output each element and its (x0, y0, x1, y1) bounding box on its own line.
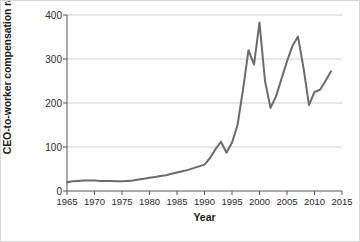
y-tick-label: 0 (56, 186, 62, 197)
x-tick-label: 1995 (221, 196, 242, 207)
y-tick-label: 400 (45, 10, 62, 21)
y-tick-label: 100 (45, 142, 62, 153)
y-tick-label: 300 (45, 54, 62, 65)
series-layer (67, 15, 342, 191)
x-tick-label: 1980 (139, 196, 160, 207)
chart-figure: CEO-to-worker compensation ratio 0100200… (0, 0, 360, 242)
x-tick-label: 1975 (111, 196, 132, 207)
x-tick-label: 1970 (84, 196, 105, 207)
x-tick-label: 1985 (166, 196, 187, 207)
x-tick-label: 2010 (304, 196, 325, 207)
y-axis-title: CEO-to-worker compensation ratio (1, 0, 13, 189)
x-axis-title: Year (67, 211, 342, 223)
x-tick-label: 1990 (194, 196, 215, 207)
x-tick-label: 2000 (249, 196, 270, 207)
x-tick-label: 2005 (276, 196, 297, 207)
y-tick-label: 200 (45, 98, 62, 109)
line-series-ceo-to-worker-ratio (67, 22, 331, 182)
x-tick-label: 1965 (56, 196, 77, 207)
x-tick-label: 2015 (331, 196, 352, 207)
plot-area: 0100200300400 19651970197519801985199019… (67, 15, 342, 191)
